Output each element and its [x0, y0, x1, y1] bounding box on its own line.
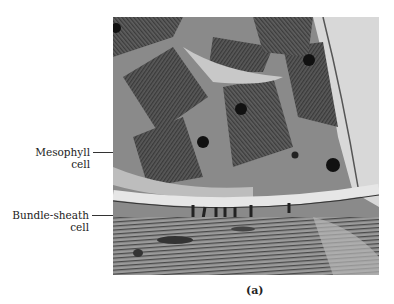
mesophyll-leader-line: [93, 152, 113, 153]
mesophyll-label-line2: cell: [10, 158, 90, 170]
panel-label: (a): [246, 284, 264, 297]
bundle-sheath-cell-label: Bundle-sheath cell: [0, 209, 89, 233]
bundle-sheath-leader-line: [92, 215, 113, 216]
bundle-sheath-label-line1: Bundle-sheath: [0, 209, 89, 221]
electron-micrograph: [113, 17, 379, 275]
micrograph-image: [113, 17, 379, 275]
mesophyll-label-line1: Mesophyll: [10, 146, 90, 158]
figure: Mesophyll cell Bundle-sheath cell (a): [0, 0, 394, 304]
mesophyll-cell-label: Mesophyll cell: [10, 146, 90, 170]
bundle-sheath-label-line2: cell: [0, 221, 89, 233]
